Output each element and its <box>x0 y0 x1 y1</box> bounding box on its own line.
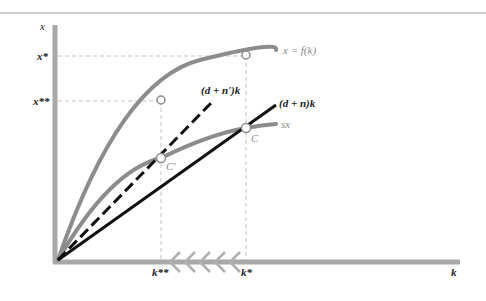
savings-curve <box>58 124 276 260</box>
break-even-label: (d + n)k <box>279 97 315 109</box>
point-C <box>242 124 251 133</box>
x-star-label: x* <box>37 50 48 62</box>
x-starstar-label: x** <box>33 95 50 107</box>
x-axis-label: k <box>451 266 457 278</box>
point-C-prime-label: C' <box>166 160 176 172</box>
break-even-dashed-line <box>58 100 214 260</box>
production-curve-label: x = f(k) <box>283 44 316 56</box>
savings-curve-label: sx <box>281 118 290 130</box>
point-C-prime <box>157 154 166 163</box>
point-f-kstar <box>242 51 250 59</box>
y-axis-label: x <box>40 20 45 32</box>
solow-diagram <box>0 0 486 301</box>
point-f-kstarstar <box>157 96 165 104</box>
point-C-label: C <box>251 132 258 144</box>
k-starstar-label: k** <box>152 266 169 278</box>
k-star-label: k* <box>241 266 252 278</box>
break-even-new-label: (d + n')k <box>201 84 240 96</box>
